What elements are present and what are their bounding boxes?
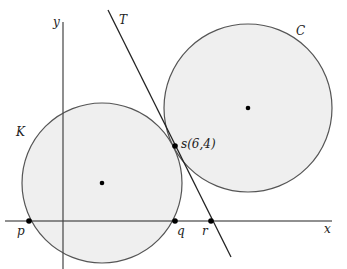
point-s xyxy=(172,143,178,149)
circle-k-label: K xyxy=(15,125,26,139)
point-q xyxy=(172,218,178,224)
point-p-label: p xyxy=(17,224,25,238)
circle-c-label: C xyxy=(296,24,305,38)
point-r xyxy=(208,218,214,224)
point-r-label: r xyxy=(202,224,209,238)
tangent-label-t: T xyxy=(119,13,128,27)
center-k xyxy=(100,181,105,186)
center-c xyxy=(246,106,251,111)
diagram: y x T C K p q r s(6,4) xyxy=(0,0,347,269)
point-s-label: s(6,4) xyxy=(181,137,216,151)
point-q-label: q xyxy=(177,224,185,238)
x-axis-label: x xyxy=(324,222,331,236)
y-axis-label: y xyxy=(52,15,60,29)
point-p xyxy=(26,218,32,224)
